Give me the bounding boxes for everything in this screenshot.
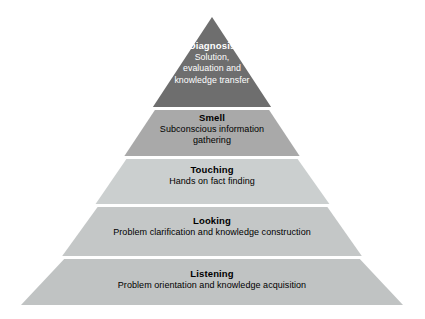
- pyramid-tier-listening: [21, 259, 403, 305]
- pyramid-tier-looking: [62, 207, 362, 256]
- pyramid-tier-diagnosis: [153, 17, 271, 107]
- pyramid-tier-touching: [96, 159, 330, 204]
- pyramid-diagram-canvas: Diagnosis Solution, evaluation and knowl…: [0, 0, 425, 319]
- pyramid-shape-group: [0, 0, 425, 319]
- pyramid-tier-smell: [124, 110, 299, 156]
